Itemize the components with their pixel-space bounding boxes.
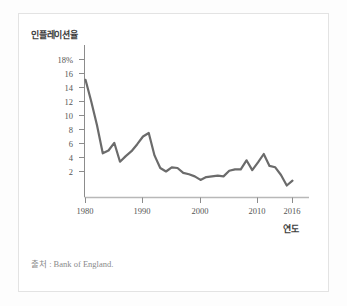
x-axis-ticks [86, 198, 293, 204]
inflation-rate-line [86, 80, 293, 186]
y-axis-ticks [79, 60, 85, 172]
axis-lines [85, 45, 310, 198]
source-note: 출처 : Bank of England. [31, 257, 113, 269]
figure-container: 인플레이션율 연도 18% 16 14 12 10 8 6 4 2 1980 1… [0, 0, 347, 306]
